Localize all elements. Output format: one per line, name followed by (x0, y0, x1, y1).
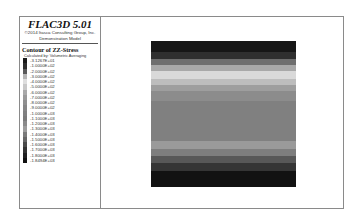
scale-label: -1.0000E+02 (30, 63, 55, 68)
contour-band (151, 149, 296, 156)
scale-label: -3.1267E+01 (30, 58, 55, 63)
plot-frame: FLAC3D 5.01 ©2014 Itasca Consulting Grou… (19, 16, 344, 209)
color-swatch (23, 158, 27, 163)
color-scale: -3.1267E+01-1.0000E+02-2.0000E+02-3.0000… (23, 58, 55, 163)
scale-label: -4.0000E+02 (30, 79, 55, 84)
contour-band (151, 171, 296, 187)
scale-label: -1.3000E+03 (30, 126, 55, 131)
contour-band (151, 71, 296, 79)
contour-band (151, 101, 296, 141)
contour-band (151, 91, 296, 101)
scale-entry: -1.8494E+03 (23, 158, 55, 163)
scale-label: -1.7000E+03 (30, 147, 55, 152)
contour-band (151, 141, 296, 149)
scale-label: -1.2000E+03 (30, 121, 55, 126)
contour-band (151, 52, 296, 59)
scale-label: -2.0000E+02 (30, 69, 55, 74)
scale-label: -7.0000E+02 (30, 95, 55, 100)
scale-label: -1.6000E+03 (30, 142, 55, 147)
contour-band (151, 163, 296, 171)
scale-label: -1.8000E+03 (30, 153, 55, 158)
scale-label: -1.5000E+03 (30, 137, 55, 142)
scale-label: -9.0000E+02 (30, 105, 55, 110)
legend-panel: FLAC3D 5.01 ©2014 Itasca Consulting Grou… (20, 17, 101, 208)
scale-label: -1.0000E+03 (30, 111, 55, 116)
scale-label: -5.0000E+02 (30, 84, 55, 89)
scale-label: -1.1000E+03 (30, 116, 55, 121)
app-title: FLAC3D 5.01 (20, 18, 100, 30)
scale-label: -1.8494E+03 (30, 158, 55, 163)
contour-band (151, 41, 296, 52)
scale-label: -3.0000E+02 (30, 74, 55, 79)
scale-label: -8.0000E+02 (30, 100, 55, 105)
model-name: Demonstration Model (22, 36, 98, 44)
contour-title: Contour of ZZ-Stress (22, 46, 100, 53)
scale-label: -6.0000E+02 (30, 90, 55, 95)
contour-band (151, 156, 296, 163)
contour-plot (151, 41, 296, 187)
scale-label: -1.4000E+03 (30, 132, 55, 137)
